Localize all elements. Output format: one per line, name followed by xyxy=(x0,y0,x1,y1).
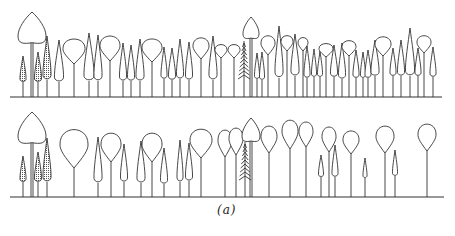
narrow-tree-icon xyxy=(127,45,134,97)
round-tree-icon xyxy=(142,39,162,97)
narrow-tree-icon xyxy=(353,50,359,97)
narrow-tree-icon xyxy=(54,40,63,97)
narrow-tree-icon xyxy=(397,40,404,97)
narrow-tree-icon xyxy=(259,52,264,97)
narrow-tree-icon xyxy=(185,143,192,197)
bottom-tree-row xyxy=(10,112,444,197)
round-tree-icon xyxy=(63,39,85,97)
round-tree-icon xyxy=(343,131,359,197)
narrow-tree-icon xyxy=(176,39,183,97)
spade-tree-icon xyxy=(18,112,46,197)
narrow-tree-icon xyxy=(317,51,322,97)
round-tree-icon xyxy=(60,130,88,197)
narrow-tree-icon xyxy=(430,47,436,97)
round-tree-icon xyxy=(418,124,436,197)
spade-tree-icon xyxy=(18,12,46,97)
round-tree-icon xyxy=(190,129,212,197)
round-tree-icon xyxy=(101,133,121,197)
shaded-tree-icon xyxy=(20,156,26,197)
narrow-tree-icon xyxy=(160,148,167,197)
narrow-tree-icon xyxy=(318,155,323,197)
round-tree-icon xyxy=(229,128,243,197)
shaded-tree-icon xyxy=(20,56,26,97)
tree-drawing-canvas xyxy=(0,0,455,236)
narrow-tree-icon xyxy=(161,47,167,97)
narrow-tree-icon xyxy=(405,28,414,97)
shaded-tree-icon xyxy=(43,36,51,97)
narrow-tree-icon xyxy=(304,46,310,97)
round-tree-icon xyxy=(282,120,298,197)
narrow-tree-icon xyxy=(120,144,127,197)
round-tree-icon xyxy=(261,126,277,197)
narrow-tree-icon xyxy=(311,49,316,97)
narrow-tree-icon xyxy=(415,48,421,97)
figure-caption: (a) xyxy=(217,203,237,217)
tree-silhouette-figure: (a) xyxy=(0,0,455,236)
round-tree-icon xyxy=(299,122,313,197)
round-tree-icon xyxy=(142,133,162,197)
top-tree-row xyxy=(10,12,442,97)
narrow-tree-icon xyxy=(392,150,397,197)
round-tree-icon xyxy=(228,45,240,97)
narrow-tree-icon xyxy=(332,145,338,197)
narrow-tree-icon xyxy=(365,50,371,97)
narrow-tree-icon xyxy=(119,43,126,97)
shaded-tree-icon xyxy=(34,52,41,97)
round-tree-icon xyxy=(193,38,209,97)
narrow-tree-icon xyxy=(275,26,283,97)
shaded-tree-icon xyxy=(43,138,51,197)
narrow-tree-icon xyxy=(185,42,192,97)
narrow-tree-icon xyxy=(330,45,337,97)
narrow-tree-icon xyxy=(254,53,259,97)
narrow-tree-icon xyxy=(390,48,396,97)
round-tree-icon xyxy=(376,126,394,197)
round-tree-icon xyxy=(100,36,120,97)
narrow-tree-icon xyxy=(168,48,175,97)
conifer-tree-icon xyxy=(239,142,251,197)
narrow-tree-icon xyxy=(209,36,217,97)
narrow-tree-icon xyxy=(363,158,367,197)
narrow-tree-icon xyxy=(84,33,94,97)
shaded-tree-icon xyxy=(34,152,41,197)
narrow-tree-icon xyxy=(177,140,183,197)
